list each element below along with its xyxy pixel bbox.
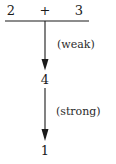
arrow-strong-label: (strong) — [56, 106, 101, 117]
node-one: 1 — [38, 144, 52, 157]
decay-chain-diagram: 2 + 3 (weak) 4 (strong) 1 — [0, 0, 116, 164]
node-four: 4 — [38, 73, 52, 86]
plus-operator-icon: + — [38, 4, 52, 17]
arrow-strong-head — [42, 129, 49, 141]
operand-right: 3 — [72, 4, 86, 17]
diagram-vector-layer — [0, 0, 116, 164]
arrow-weak-head — [42, 59, 49, 71]
operand-left: 2 — [4, 4, 18, 17]
arrow-weak-label: (weak) — [57, 39, 95, 50]
